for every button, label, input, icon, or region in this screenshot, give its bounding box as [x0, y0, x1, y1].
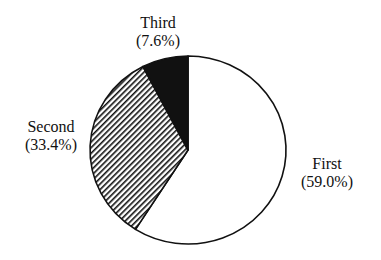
label-third: Third (7.6%): [128, 14, 188, 50]
label-second-name: Second: [18, 118, 84, 136]
pie-slices: [90, 56, 286, 244]
label-third-pct: (7.6%): [128, 32, 188, 50]
label-first: First (59.0%): [292, 155, 362, 191]
label-second: Second (33.4%): [18, 118, 84, 154]
label-first-pct: (59.0%): [292, 173, 362, 191]
label-third-name: Third: [128, 14, 188, 32]
label-second-pct: (33.4%): [18, 136, 84, 154]
label-first-name: First: [292, 155, 362, 173]
